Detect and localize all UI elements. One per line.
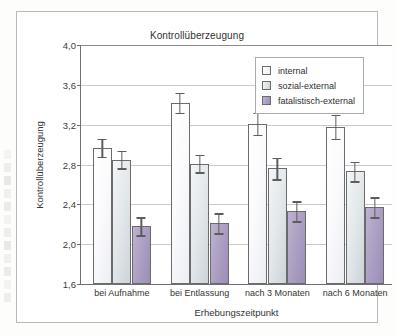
scan-artifact bbox=[4, 254, 11, 263]
error-bar bbox=[335, 115, 336, 139]
y-tick-label: 4,0 bbox=[63, 40, 76, 51]
y-tick-label: 1,6 bbox=[63, 279, 76, 290]
bar-internal-3 bbox=[326, 127, 345, 284]
legend-item-internal: internal bbox=[262, 63, 355, 78]
x-category-label: nach 3 Monaten bbox=[245, 288, 310, 298]
chart-frame: Kontrollüberzeugung 1,62,02,42,83,23,64,… bbox=[16, 11, 378, 323]
error-bar bbox=[179, 93, 180, 113]
bar-sozial-external-3 bbox=[346, 171, 365, 284]
legend-item-fatalistisch-external: fatalistisch-external bbox=[262, 93, 355, 108]
y-axis-title: Kontrollüberzeugung bbox=[34, 121, 45, 209]
error-bar-cap-upper bbox=[117, 151, 126, 152]
error-bar-cap-upper bbox=[331, 115, 340, 116]
scan-artifact bbox=[4, 228, 11, 237]
error-bar-cap-lower bbox=[117, 168, 126, 169]
error-bar-cap-upper bbox=[273, 158, 282, 159]
error-bar-cap-upper bbox=[195, 155, 204, 156]
error-bar-cap-upper bbox=[137, 217, 146, 218]
y-tick-mark bbox=[77, 165, 81, 166]
error-bar bbox=[296, 201, 297, 221]
scan-artifact bbox=[4, 215, 11, 224]
scan-artifact bbox=[4, 150, 11, 159]
error-bar-cap-lower bbox=[215, 233, 224, 234]
error-bar-cap-lower bbox=[253, 135, 262, 136]
error-bar-cap-lower bbox=[351, 181, 360, 182]
scan-artifact bbox=[4, 241, 11, 250]
legend-item-sozial-external: sozial-external bbox=[262, 78, 355, 93]
error-bar bbox=[277, 158, 278, 180]
error-bar-cap-upper bbox=[215, 213, 224, 214]
error-bar-cap-lower bbox=[292, 221, 301, 222]
error-bar-cap-lower bbox=[370, 217, 379, 218]
error-bar-cap-upper bbox=[370, 197, 379, 198]
y-tick-label: 2,4 bbox=[63, 199, 76, 210]
bar-internal-2 bbox=[248, 124, 267, 284]
error-bar bbox=[199, 155, 200, 173]
x-category-label: bei Entlassung bbox=[170, 288, 229, 298]
legend-label: internal bbox=[278, 66, 308, 76]
y-tick-mark bbox=[77, 125, 81, 126]
scan-artifact bbox=[4, 189, 11, 198]
legend-swatch-icon bbox=[262, 66, 271, 75]
legend-label: sozial-external bbox=[278, 81, 336, 91]
bar-sozial-external-1 bbox=[190, 164, 209, 284]
error-bar bbox=[121, 151, 122, 169]
error-bar-cap-lower bbox=[137, 235, 146, 236]
gridline bbox=[81, 45, 392, 46]
x-category-label: nach 6 Monaten bbox=[323, 288, 388, 298]
error-bar-cap-lower bbox=[98, 157, 107, 158]
y-tick-label: 2,8 bbox=[63, 159, 76, 170]
error-bar bbox=[354, 162, 355, 182]
error-bar bbox=[374, 197, 375, 217]
error-bar-cap-lower bbox=[195, 172, 204, 173]
error-bar bbox=[218, 213, 219, 233]
legend-swatch-icon bbox=[262, 81, 271, 90]
y-tick-label: 3,6 bbox=[63, 79, 76, 90]
x-axis-title: Erhebungszeitpunkt bbox=[81, 307, 392, 318]
error-bar-cap-upper bbox=[98, 139, 107, 140]
error-bar-cap-lower bbox=[176, 113, 185, 114]
x-category-label: bei Aufnahme bbox=[94, 288, 149, 298]
y-tick-mark bbox=[77, 284, 81, 285]
scan-artifact bbox=[4, 293, 11, 302]
bar-internal-0 bbox=[93, 148, 112, 284]
scan-artifact bbox=[4, 267, 11, 276]
y-tick-label: 2,0 bbox=[63, 239, 76, 250]
y-tick-mark bbox=[77, 85, 81, 86]
error-bar-cap-lower bbox=[331, 139, 340, 140]
scan-artifact bbox=[4, 163, 11, 172]
gridline bbox=[81, 125, 392, 126]
error-bar-cap-upper bbox=[176, 93, 185, 94]
y-tick-mark bbox=[77, 244, 81, 245]
legend-swatch-icon bbox=[262, 96, 271, 105]
error-bar-cap-upper bbox=[292, 201, 301, 202]
figure-container: Kontrollüberzeugung 1,62,02,42,83,23,64,… bbox=[0, 0, 396, 335]
error-bar-cap-lower bbox=[273, 179, 282, 180]
bar-sozial-external-2 bbox=[268, 168, 287, 284]
bar-fatalistisch-external-3 bbox=[365, 207, 384, 284]
scan-artifact bbox=[4, 280, 11, 289]
bar-sozial-external-0 bbox=[112, 160, 131, 284]
legend-label: fatalistisch-external bbox=[278, 96, 355, 106]
y-tick-mark bbox=[77, 204, 81, 205]
legend: internalsozial-externalfatalistisch-exte… bbox=[255, 57, 364, 114]
y-tick-label: 3,2 bbox=[63, 119, 76, 130]
error-bar bbox=[141, 217, 142, 235]
error-bar bbox=[257, 113, 258, 135]
scan-artifact bbox=[4, 202, 11, 211]
y-tick-mark bbox=[77, 45, 81, 46]
error-bar bbox=[102, 139, 103, 157]
scan-artifact bbox=[4, 176, 11, 185]
error-bar-cap-upper bbox=[351, 162, 360, 163]
bar-internal-1 bbox=[171, 103, 190, 284]
